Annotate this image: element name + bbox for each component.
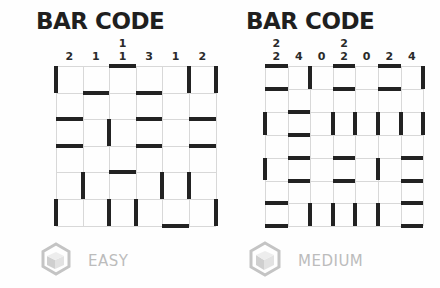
grid-line xyxy=(56,66,216,67)
bar-segment-horizontal[interactable] xyxy=(109,170,136,174)
bar-segment-horizontal[interactable] xyxy=(109,64,136,68)
bar-segment-vertical[interactable] xyxy=(421,112,425,135)
bar-segment-horizontal[interactable] xyxy=(401,224,424,228)
bar-segment-vertical[interactable] xyxy=(54,199,58,226)
bar-segment-vertical[interactable] xyxy=(376,158,380,181)
bar-segment-horizontal[interactable] xyxy=(288,179,311,183)
bar-segment-vertical[interactable] xyxy=(399,112,403,135)
difficulty-label: MEDIUM xyxy=(298,252,363,270)
bar-segment-vertical[interactable] xyxy=(353,112,357,135)
bar-segment-horizontal[interactable] xyxy=(189,117,216,121)
column-hint: 4 xyxy=(401,51,424,62)
bar-segment-horizontal[interactable] xyxy=(265,87,288,91)
bar-segment-vertical[interactable] xyxy=(214,66,218,93)
grid-line xyxy=(355,66,356,226)
bar-segment-horizontal[interactable] xyxy=(265,224,288,228)
bar-segment-horizontal[interactable] xyxy=(333,156,356,160)
column-hint: 2 xyxy=(378,51,401,62)
bar-segment-vertical[interactable] xyxy=(187,66,191,93)
column-hint: 2 xyxy=(333,38,356,49)
bar-segment-vertical[interactable] xyxy=(263,112,267,135)
bar-segment-vertical[interactable] xyxy=(263,158,267,181)
difficulty-badge: MEDIUM xyxy=(248,241,363,281)
bar-segment-horizontal[interactable] xyxy=(136,117,163,121)
bar-segment-horizontal[interactable] xyxy=(189,144,216,148)
column-hint: 0 xyxy=(355,51,378,62)
bar-segment-horizontal[interactable] xyxy=(136,91,163,95)
puzzle-title: BAR CODE xyxy=(246,10,374,33)
bar-segment-vertical[interactable] xyxy=(331,112,335,135)
bar-segment-vertical[interactable] xyxy=(376,112,380,135)
bar-segment-horizontal[interactable] xyxy=(401,201,424,205)
bar-segment-horizontal[interactable] xyxy=(401,156,424,160)
bar-segment-horizontal[interactable] xyxy=(378,87,401,91)
bar-segment-vertical[interactable] xyxy=(54,66,58,93)
grid-line xyxy=(265,226,423,227)
bar-segment-horizontal[interactable] xyxy=(333,87,356,91)
bar-segment-vertical[interactable] xyxy=(353,203,357,226)
bar-segment-vertical[interactable] xyxy=(421,66,425,89)
bar-segment-horizontal[interactable] xyxy=(136,144,163,148)
bar-segment-vertical[interactable] xyxy=(187,172,191,199)
column-hint: 2 xyxy=(333,51,356,62)
grid-line xyxy=(288,66,289,226)
bar-segment-horizontal[interactable] xyxy=(83,91,110,95)
column-hint: 2 xyxy=(189,51,216,62)
bar-segment-vertical[interactable] xyxy=(214,199,218,226)
grid-line xyxy=(423,66,424,226)
bar-segment-horizontal[interactable] xyxy=(56,117,83,121)
difficulty-badge: EASY xyxy=(40,242,128,280)
bar-segment-horizontal[interactable] xyxy=(401,179,424,183)
bar-segment-horizontal[interactable] xyxy=(288,156,311,160)
grid-line xyxy=(265,203,423,204)
bar-segment-vertical[interactable] xyxy=(107,199,111,226)
puzzle-title: BAR CODE xyxy=(36,10,164,33)
bar-segment-horizontal[interactable] xyxy=(288,133,311,137)
bar-segment-horizontal[interactable] xyxy=(265,201,288,205)
bar-segment-horizontal[interactable] xyxy=(288,110,311,114)
bar-segment-horizontal[interactable] xyxy=(333,64,356,68)
bar-segment-horizontal[interactable] xyxy=(333,179,356,183)
column-hint: 0 xyxy=(310,51,333,62)
bar-segment-vertical[interactable] xyxy=(107,119,111,146)
bar-segment-horizontal[interactable] xyxy=(265,64,288,68)
bar-segment-vertical[interactable] xyxy=(308,66,312,89)
bar-segment-vertical[interactable] xyxy=(308,203,312,226)
bar-segment-horizontal[interactable] xyxy=(378,64,401,68)
difficulty-label: EASY xyxy=(88,252,128,270)
bar-segment-vertical[interactable] xyxy=(376,203,380,226)
column-hint: 4 xyxy=(288,51,311,62)
cube-icon xyxy=(248,241,282,281)
bar-segment-vertical[interactable] xyxy=(331,203,335,226)
cube-icon xyxy=(40,242,72,280)
grid-line xyxy=(56,226,216,227)
grid-line xyxy=(310,66,311,226)
column-hint: 2 xyxy=(56,51,83,62)
bar-segment-horizontal[interactable] xyxy=(162,224,189,228)
column-hint: 2 xyxy=(265,51,288,62)
column-hint: 1 xyxy=(162,51,189,62)
column-hint: 1 xyxy=(83,51,110,62)
bar-segment-vertical[interactable] xyxy=(134,199,138,226)
column-hint: 3 xyxy=(136,51,163,62)
column-hint: 1 xyxy=(109,38,136,49)
column-hint: 1 xyxy=(109,51,136,62)
column-hint: 2 xyxy=(265,38,288,49)
bar-segment-vertical[interactable] xyxy=(160,172,164,199)
bar-segment-vertical[interactable] xyxy=(81,172,85,199)
bar-segment-horizontal[interactable] xyxy=(56,144,83,148)
